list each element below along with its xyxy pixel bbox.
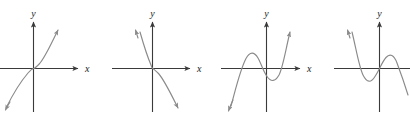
panel-2-curve-left-tail bbox=[136, 30, 139, 38]
panel-4-curve-left-tail bbox=[348, 30, 351, 38]
panel-1-curve-left-tail bbox=[6, 102, 11, 110]
panel-3-x-axis-label: x bbox=[306, 63, 312, 74]
panel-4: y bbox=[334, 8, 410, 112]
panel-2-y-axis-label: y bbox=[149, 8, 155, 19]
panel-2-x-axis-label: x bbox=[196, 63, 202, 74]
panel-3: x y bbox=[221, 8, 312, 112]
math-figure-panel-set: x y x y x y y bbox=[0, 0, 410, 119]
graph-canvas: x y x y x y y bbox=[0, 0, 410, 119]
panel-3-y-axis-label: y bbox=[263, 8, 269, 19]
panel-2: x y bbox=[112, 8, 202, 112]
panel-4-y-axis-label: y bbox=[376, 8, 382, 19]
panel-2-curve bbox=[140, 32, 178, 108]
panel-1: x y bbox=[0, 8, 90, 112]
panel-1-y-axis-label: y bbox=[30, 8, 36, 19]
panel-3-curve-left-tail bbox=[229, 100, 234, 111]
panel-1-x-axis-label: x bbox=[84, 63, 90, 74]
